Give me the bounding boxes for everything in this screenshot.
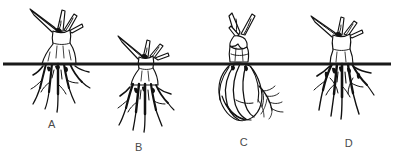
specimen-a [30, 9, 90, 112]
figure-illustration [0, 0, 400, 165]
specimen-label-a: A [44, 118, 60, 130]
specimen-a-leaves [30, 9, 83, 33]
specimen-b-crown [131, 56, 158, 85]
specimen-c-bulb [219, 63, 262, 121]
specimen-c [219, 13, 283, 121]
specimen-b-roots [118, 84, 174, 132]
specimen-c-leaves [229, 13, 255, 37]
specimen-c-crown [229, 36, 248, 62]
specimen-b [118, 36, 174, 132]
specimen-b-leaves [118, 36, 169, 60]
specimen-label-d: D [341, 137, 357, 149]
specimen-d-crown [330, 34, 353, 64]
specimen-d-roots [314, 64, 374, 119]
planting-depth-figure: A B C D [0, 0, 400, 165]
specimen-d [311, 16, 374, 119]
specimen-d-leaves [311, 16, 363, 38]
specimen-a-roots [31, 64, 90, 112]
specimen-label-c: C [236, 136, 252, 148]
specimen-label-b: B [131, 141, 147, 153]
specimen-a-crown [42, 30, 76, 64]
